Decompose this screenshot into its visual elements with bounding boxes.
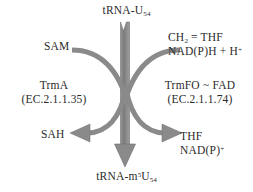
enzyme-right-label: TrmFO ~ FAD(EC.2.1.1.74) — [148, 79, 252, 106]
substrate-position: 54 — [143, 10, 150, 18]
sam-text: SAM — [44, 40, 70, 52]
trma-ec-number: (EC.2.1.1.35) — [2, 93, 106, 107]
nadp-text: NAD(P) — [180, 144, 220, 156]
sah-text: SAH — [41, 128, 65, 140]
ch2-prefix: CH — [168, 31, 184, 43]
substrate-label: tRNA-U54 — [0, 4, 253, 18]
pathway-diagram: tRNA-U54 SAM CH2 = THFNAD(P)H + H+ TrmA(… — [0, 0, 253, 192]
nadph-charge: + — [238, 46, 242, 54]
trmfo-name: TrmFO ~ FAD — [165, 79, 235, 91]
trma-name: TrmA — [40, 79, 69, 91]
enzyme-left-label: TrmA(EC.2.1.1.35) — [2, 79, 106, 106]
nadph-text: NAD(P)H + H — [168, 45, 238, 57]
sam-label: SAM — [44, 40, 70, 54]
sah-label: SAH — [41, 128, 65, 142]
thf-suffix: = THF — [188, 31, 223, 43]
substrate-name: tRNA-U — [103, 4, 144, 16]
cofactor-input-label: CH2 = THFNAD(P)H + H+ — [168, 31, 242, 59]
product-prefix: tRNA-m — [96, 170, 137, 182]
nadp-charge: + — [220, 145, 224, 153]
cofactor-output-label: THFNAD(P)+ — [180, 130, 224, 157]
thf-text: THF — [180, 130, 202, 142]
trmfo-ec-number: (EC.2.1.1.74) — [148, 93, 252, 107]
product-label: tRNA-m5U54 — [0, 170, 253, 184]
product-position: 54 — [150, 176, 157, 184]
product-base: U — [141, 170, 150, 182]
